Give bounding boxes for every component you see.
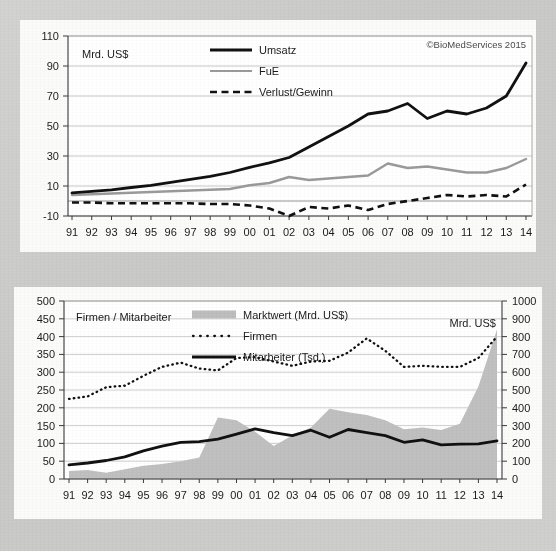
- bottom-y-tick-label-right: 200: [512, 437, 530, 449]
- bottom-y-tick-label-right: 900: [512, 313, 530, 325]
- bottom-x-tick-label: 09: [398, 489, 410, 501]
- bottom-axis-note-left: Firmen / Mitarbeiter: [76, 311, 172, 323]
- bottom-y-tick-label-left: 250: [37, 384, 55, 396]
- top-axis-note: Mrd. US$: [82, 48, 128, 60]
- top-chart-svg: -101030507090110919293949596979899000102…: [20, 20, 536, 252]
- top-x-tick-label: 98: [204, 226, 216, 238]
- top-y-tick-label: 90: [47, 60, 59, 72]
- copyright-note: ©BioMedServices 2015: [427, 39, 526, 50]
- bottom-y-tick-label-left: 200: [37, 402, 55, 414]
- top-x-tick-label: 91: [66, 226, 78, 238]
- bottom-y-tick-label-left: 400: [37, 331, 55, 343]
- top-x-tick-label: 95: [145, 226, 157, 238]
- bottom-x-tick-label: 12: [454, 489, 466, 501]
- top-x-tick-label: 02: [283, 226, 295, 238]
- bottom-x-tick-label: 10: [416, 489, 428, 501]
- top-y-tick-label: 110: [41, 30, 59, 42]
- top-y-tick-label: 30: [47, 150, 59, 162]
- bottom-y-tick-label-left: 350: [37, 348, 55, 360]
- top-x-tick-label: 12: [480, 226, 492, 238]
- bottom-x-tick-label: 93: [100, 489, 112, 501]
- bottom-y-tick-label-left: 150: [37, 420, 55, 432]
- bottom-x-tick-label: 02: [268, 489, 280, 501]
- bottom-y-tick-label-left: 300: [37, 366, 55, 378]
- bottom-y-tick-label-right: 600: [512, 366, 530, 378]
- top-x-tick-label: 92: [86, 226, 98, 238]
- top-x-tick-label: 10: [441, 226, 453, 238]
- legend-label-umsatz: Umsatz: [259, 44, 296, 56]
- bottom-chart-svg: 0501001502002503003504004505000100200300…: [14, 287, 542, 519]
- top-y-tick-label: 70: [47, 90, 59, 102]
- bottom-y-tick-label-right: 500: [512, 384, 530, 396]
- bottom-x-tick-label: 98: [193, 489, 205, 501]
- legend-label-verlust_gewinn: Verlust/Gewinn: [259, 86, 333, 98]
- top-y-tick-label: 50: [47, 120, 59, 132]
- top-x-tick-label: 03: [303, 226, 315, 238]
- bottom-y-tick-label-right: 800: [512, 331, 530, 343]
- top-x-tick-label: 11: [461, 226, 472, 238]
- top-y-tick-label: 10: [47, 180, 59, 192]
- bottom-x-tick-label: 95: [137, 489, 149, 501]
- legend-label-firmen: Firmen: [243, 330, 277, 342]
- bottom-x-tick-label: 05: [323, 489, 335, 501]
- top-x-tick-label: 97: [184, 226, 196, 238]
- bottom-x-tick-label: 91: [63, 489, 75, 501]
- legend-swatch-marktwert: [192, 311, 236, 319]
- bottom-y-tick-label-left: 100: [37, 437, 55, 449]
- bottom-y-tick-label-right: 400: [512, 402, 530, 414]
- top-x-tick-label: 00: [244, 226, 256, 238]
- bottom-x-tick-label: 97: [175, 489, 187, 501]
- bottom-y-tick-label-right: 1000: [512, 295, 536, 307]
- top-x-tick-label: 99: [224, 226, 236, 238]
- bottom-x-tick-label: 13: [472, 489, 484, 501]
- bottom-y-tick-label-right: 300: [512, 420, 530, 432]
- top-y-tick-label: -10: [43, 210, 59, 222]
- bottom-x-tick-label: 08: [379, 489, 391, 501]
- bottom-x-tick-label: 06: [342, 489, 354, 501]
- bottom-x-tick-label: 92: [81, 489, 93, 501]
- bottom-x-tick-label: 99: [212, 489, 224, 501]
- top-x-tick-label: 09: [421, 226, 433, 238]
- top-x-tick-label: 96: [165, 226, 177, 238]
- bottom-y-tick-label-left: 500: [37, 295, 55, 307]
- bottom-chart-panel: 0501001502002503003504004505000100200300…: [14, 287, 542, 519]
- top-x-tick-label: 14: [520, 226, 532, 238]
- bottom-axis-note-right: Mrd. US$: [450, 317, 496, 329]
- bottom-y-tick-label-right: 100: [512, 455, 530, 467]
- top-x-tick-label: 01: [263, 226, 275, 238]
- top-x-tick-label: 07: [382, 226, 394, 238]
- top-x-tick-label: 93: [105, 226, 117, 238]
- bottom-y-tick-label-left: 450: [37, 313, 55, 325]
- scanned-figure-page: -101030507090110919293949596979899000102…: [0, 0, 556, 551]
- bottom-x-tick-label: 11: [435, 489, 446, 501]
- top-x-tick-label: 04: [322, 226, 334, 238]
- bottom-x-tick-label: 04: [305, 489, 317, 501]
- top-x-tick-label: 94: [125, 226, 137, 238]
- bottom-x-tick-label: 00: [230, 489, 242, 501]
- top-x-tick-label: 06: [362, 226, 374, 238]
- top-x-tick-label: 08: [401, 226, 413, 238]
- top-x-tick-label: 13: [500, 226, 512, 238]
- bottom-x-tick-label: 07: [361, 489, 373, 501]
- top-x-tick-label: 05: [342, 226, 354, 238]
- bottom-x-tick-label: 94: [119, 489, 131, 501]
- bottom-y-tick-label-right: 700: [512, 348, 530, 360]
- top-chart-panel: -101030507090110919293949596979899000102…: [20, 20, 536, 252]
- bottom-x-tick-label: 03: [286, 489, 298, 501]
- bottom-y-tick-label-right: 0: [512, 473, 518, 485]
- legend-label-mitarbeiter: Mitarbeiter (Tsd.): [243, 351, 326, 363]
- legend-label-marktwert: Marktwert (Mrd. US$): [243, 309, 348, 321]
- bottom-x-tick-label: 01: [249, 489, 261, 501]
- bottom-y-tick-label-left: 50: [43, 455, 55, 467]
- bottom-x-tick-label: 96: [156, 489, 168, 501]
- bottom-x-tick-label: 14: [491, 489, 503, 501]
- legend-label-fue: FuE: [259, 65, 279, 77]
- bottom-y-tick-label-left: 0: [49, 473, 55, 485]
